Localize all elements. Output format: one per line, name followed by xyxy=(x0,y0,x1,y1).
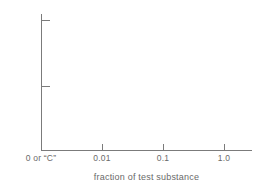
x-tick-label-origin: 0 or “C” xyxy=(26,153,56,163)
y-axis-tick xyxy=(42,86,50,87)
x-axis-tick xyxy=(163,144,164,150)
x-tick-label: 0.01 xyxy=(93,153,110,163)
plot-area xyxy=(42,14,252,150)
y-axis-tick xyxy=(42,20,50,21)
x-axis-tick xyxy=(224,144,225,150)
x-axis-line xyxy=(41,150,252,151)
x-axis-tick xyxy=(102,144,103,150)
chart-figure: 0 or “C” 0.01 0.1 1.0 fraction of test s… xyxy=(0,0,259,193)
x-tick-label: 1.0 xyxy=(218,153,230,163)
y-axis-line xyxy=(41,14,42,151)
x-axis-title: fraction of test substance xyxy=(41,172,252,182)
x-tick-label: 0.1 xyxy=(157,153,169,163)
